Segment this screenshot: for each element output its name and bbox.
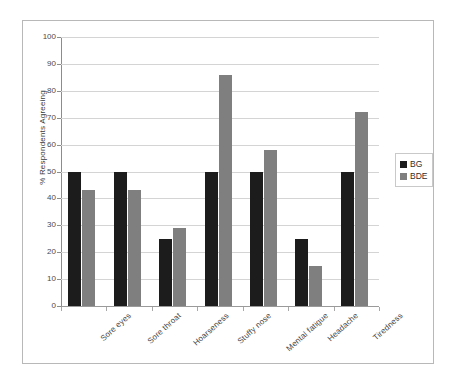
x-axis-tick-label: Hoarseness: [191, 311, 230, 348]
plot-area: [61, 37, 379, 306]
y-axis-tick-label: 0: [52, 302, 56, 310]
x-axis-tick-label: Sore throat: [145, 311, 182, 346]
bar-bde: [219, 75, 232, 306]
bar-group: [295, 37, 322, 306]
legend-item-bde: BDE: [400, 170, 427, 182]
bar-bde: [128, 190, 141, 306]
bar-bde: [355, 112, 368, 306]
bar-group: [341, 37, 368, 306]
legend-item-bg: BG: [400, 158, 427, 170]
y-axis-tick-label: 40: [47, 194, 56, 202]
x-axis-tick-label: Mental fatigue: [285, 311, 330, 353]
y-axis-tick-mark: [57, 279, 61, 280]
y-axis-tick-label: 90: [47, 60, 56, 68]
bar-bde: [82, 190, 95, 306]
bar-bg: [341, 172, 354, 307]
bar-chart: % Respondents Agreeing 01020304050607080…: [23, 21, 435, 365]
x-axis-tick-label: Sore eyes: [99, 311, 133, 343]
black-square-swatch: [400, 161, 407, 168]
y-axis-tick-label: 50: [47, 168, 56, 176]
y-axis-tick-label: 70: [47, 114, 56, 122]
y-axis-tick-label: 20: [47, 248, 56, 256]
y-axis-tick-mark: [57, 145, 61, 146]
bar-bde: [264, 150, 277, 306]
y-axis-tick-mark: [57, 91, 61, 92]
y-axis-tick-label: 10: [47, 275, 56, 283]
bar-bg: [114, 172, 127, 307]
gray-square-swatch: [400, 173, 407, 180]
x-axis-tick-label: Tiredness: [371, 311, 404, 342]
y-axis-tick-label: 60: [47, 141, 56, 149]
bar-bg: [295, 239, 308, 306]
y-axis-tick-mark: [57, 118, 61, 119]
y-axis-tick-label: 100: [43, 33, 56, 41]
bar-group: [68, 37, 95, 306]
y-axis-tick-mark: [57, 172, 61, 173]
bar-bg: [159, 239, 172, 306]
bar-group: [114, 37, 141, 306]
y-axis-tick-mark: [57, 306, 61, 307]
figure-frame: % Respondents Agreeing 01020304050607080…: [22, 20, 434, 364]
x-axis-tick-label: Headache: [326, 311, 360, 343]
x-axis-tick-labels: Sore eyesSore throatHoarsenessStuffy nos…: [61, 311, 391, 365]
bar-bg: [250, 172, 263, 307]
bar-group: [250, 37, 277, 306]
y-axis-tick-mark: [57, 252, 61, 253]
y-axis-tick-labels: 0102030405060708090100: [23, 37, 56, 306]
y-axis-tick-label: 30: [47, 221, 56, 229]
legend-item-label: BG: [410, 159, 422, 169]
bar-bg: [205, 172, 218, 307]
bar-group: [159, 37, 186, 306]
y-axis-tick-mark: [57, 64, 61, 65]
legend-item-label: BDE: [410, 171, 427, 181]
chart-legend: BGBDE: [395, 153, 433, 187]
y-axis-tick-mark: [57, 225, 61, 226]
y-axis-tick-mark: [57, 198, 61, 199]
y-axis-tick-mark: [57, 37, 61, 38]
bar-group: [205, 37, 232, 306]
y-axis-tick-label: 80: [47, 87, 56, 95]
bar-bde: [173, 228, 186, 306]
bar-bde: [309, 266, 322, 306]
x-axis-tick-label: Stuffy nose: [236, 311, 273, 346]
bar-bg: [68, 172, 81, 307]
